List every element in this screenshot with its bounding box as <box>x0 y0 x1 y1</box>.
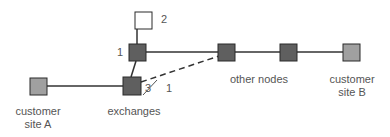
label-customer-b-line1: customer <box>322 73 382 86</box>
node-spare-2 <box>135 12 152 29</box>
number-spare: 2 <box>161 13 167 25</box>
label-customer-site-b: customer site B <box>322 73 382 99</box>
number-exchange-upper: 1 <box>117 46 123 58</box>
label-customer-a-line1: customer <box>8 105 68 118</box>
label-exchanges: exchanges <box>104 105 164 118</box>
link-exchange-3-other-node-1-dashed <box>141 56 219 82</box>
node-other-2 <box>280 44 297 61</box>
node-customer-site-a <box>30 78 47 95</box>
node-exchange-3 <box>123 77 141 95</box>
label-customer-a-line2: site A <box>8 118 68 131</box>
label-customer-site-a: customer site A <box>8 105 68 131</box>
link-exchange-3-exchange-1 <box>131 61 136 77</box>
number-exchange-lower: 3 <box>145 82 151 94</box>
label-other-nodes: other nodes <box>224 73 294 86</box>
label-customer-b-line2: site B <box>322 86 382 99</box>
node-exchange-1 <box>129 44 146 61</box>
node-other-1 <box>218 44 235 61</box>
node-customer-site-b <box>343 44 360 61</box>
number-dashed-link: 1 <box>166 82 172 94</box>
